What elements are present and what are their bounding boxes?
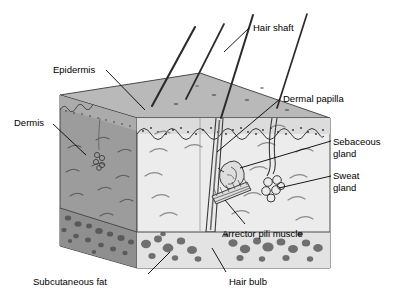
label-epidermis: Epidermis — [53, 64, 95, 76]
skin-left-cut-face — [60, 95, 137, 268]
skin-front-cut-face — [137, 118, 330, 268]
label-dermis: Dermis — [14, 117, 44, 129]
label-hair-bulb: Hair bulb — [229, 276, 267, 288]
label-hair-shaft: Hair shaft — [253, 22, 294, 34]
label-sebaceous-gland: Sebaceous gland — [333, 136, 381, 159]
label-subcutaneous-fat: Subcutaneous fat — [33, 276, 107, 288]
label-arrector-pili-muscle: Arrector pili muscle — [222, 228, 303, 240]
label-dermal-papilla: Dermal papilla — [283, 93, 344, 105]
skin-cross-section-diagram: Epidermis Dermis Subcutaneous fat Hair s… — [0, 0, 405, 307]
label-sweat-gland: Sweat gland — [333, 170, 359, 193]
